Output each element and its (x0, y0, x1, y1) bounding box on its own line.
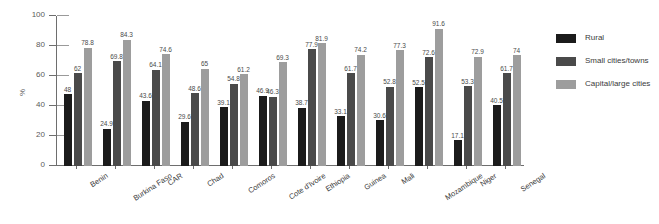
bar: 48 (64, 94, 72, 166)
bar-value-label: 74 (513, 48, 520, 55)
x-tick (115, 166, 116, 169)
y-tick: 60 (49, 75, 56, 76)
bar-value-label: 72.9 (471, 49, 484, 56)
bar: 74 (513, 55, 521, 166)
legend-item[interactable]: Rural (556, 34, 656, 43)
bar: 54.8 (230, 84, 238, 166)
x-axis-label: Senegal (519, 172, 546, 193)
y-tick-label: 80 (36, 41, 45, 49)
bar-value-label: 69.8 (110, 54, 123, 61)
x-tick (466, 166, 467, 169)
x-axis-label: Comoros (246, 172, 276, 195)
bar-group: 43.664.174.6 (142, 16, 170, 166)
bar: 61.7 (503, 73, 511, 166)
y-tick-label: 40 (36, 101, 45, 109)
y-tick-label: 20 (36, 131, 45, 139)
bar-value-label: 29.6 (178, 114, 191, 121)
bar-value-label: 40.5 (490, 98, 503, 105)
y-tick: 20 (49, 135, 56, 136)
y-tick-label: 100 (32, 11, 45, 19)
legend-label: Rural (585, 34, 604, 43)
bar-value-label: 48.6 (188, 86, 201, 93)
bar: 74.6 (162, 54, 170, 166)
bar: 52.5 (415, 87, 423, 166)
x-tick (271, 166, 272, 169)
x-axis-label: Ethiopia (324, 172, 351, 193)
bar-value-label: 61.2 (237, 67, 250, 74)
bar-value-label: 64.1 (149, 62, 162, 69)
x-axis-label: Guinea (362, 172, 386, 191)
bar: 48.6 (191, 93, 199, 166)
y-tick: 40 (49, 105, 56, 106)
x-tick (427, 166, 428, 169)
bar-value-label: 17.1 (451, 133, 464, 140)
x-axis-label: Cote d'Ivoire (287, 172, 326, 201)
x-tick (193, 166, 194, 169)
bar-value-label: 84.3 (120, 32, 133, 39)
legend-label: Capital/large cities (585, 80, 650, 89)
bar: 61.2 (240, 74, 248, 166)
bar: 65 (201, 69, 209, 167)
legend-swatch (556, 80, 576, 89)
bar: 78.8 (84, 48, 92, 166)
bar-value-label: 81.9 (315, 36, 328, 43)
chart-legend: RuralSmall cities/townsCapital/large cit… (556, 34, 656, 103)
bar-value-label: 62 (74, 66, 81, 73)
bar-value-label: 74.2 (354, 47, 367, 54)
legend-item[interactable]: Capital/large cities (556, 80, 656, 89)
bar-value-label: 61.7 (500, 66, 513, 73)
bar-value-label: 61.7 (344, 66, 357, 73)
bar-value-label: 69.3 (276, 55, 289, 62)
bar-group: 38.777.981.9 (298, 16, 326, 166)
bar: 46.3 (269, 97, 277, 166)
y-tick: 0 (49, 165, 56, 166)
y-tick: 100 (49, 15, 56, 16)
bar-group: 29.648.665 (181, 16, 209, 166)
plot-area: 020406080100 486278.824.969.884.343.664.… (56, 16, 524, 166)
x-axis-label: Burkina Faso (132, 172, 173, 202)
bar-value-label: 74.6 (159, 47, 172, 54)
bar-value-label: 77.3 (393, 43, 406, 50)
y-axis-line (56, 16, 57, 166)
bar: 33.1 (337, 116, 345, 166)
x-axis-label: Mozambique (443, 172, 483, 202)
bar-value-label: 48 (64, 87, 71, 94)
bar-value-label: 78.8 (81, 40, 94, 47)
bar: 72.6 (425, 57, 433, 166)
bar: 52.8 (386, 87, 394, 166)
bar-chart: % 020406080100 486278.824.969.884.343.66… (0, 0, 659, 224)
legend-swatch (556, 34, 576, 43)
x-tick (388, 166, 389, 169)
bar-value-label: 24.9 (100, 121, 113, 128)
bar-value-label: 52.8 (383, 79, 396, 86)
bar-group: 40.561.774 (493, 16, 521, 166)
x-tick (310, 166, 311, 169)
bar-value-label: 43.6 (139, 93, 152, 100)
bar: 81.9 (318, 43, 326, 166)
x-tick (349, 166, 350, 169)
bar-value-label: 53.3 (461, 79, 474, 86)
bar-group: 24.969.884.3 (103, 16, 131, 166)
legend-item[interactable]: Small cities/towns (556, 57, 656, 66)
bar: 77.3 (396, 50, 404, 166)
bar-value-label: 46.3 (266, 89, 279, 96)
legend-label: Small cities/towns (585, 57, 649, 66)
bar-value-label: 33.1 (334, 109, 347, 116)
y-tick-label: 60 (36, 71, 45, 79)
bar: 53.3 (464, 86, 472, 166)
bar-group: 17.153.372.9 (454, 16, 482, 166)
bar: 74.2 (357, 55, 365, 166)
bar: 43.6 (142, 101, 150, 166)
bar-value-label: 30.6 (373, 113, 386, 120)
x-axis-label: Benin (89, 172, 109, 189)
bar-group: 486278.8 (64, 16, 92, 166)
bar-value-label: 52.5 (412, 80, 425, 87)
y-tick-label: 0 (41, 161, 45, 169)
bar: 84.3 (123, 40, 131, 166)
bar-group: 39.154.861.2 (220, 16, 248, 166)
bar-group: 52.572.691.6 (415, 16, 443, 166)
x-axis-label: Chad (205, 172, 224, 188)
bar-value-label: 77.9 (305, 42, 318, 49)
bar: 24.9 (103, 129, 111, 166)
bar: 62 (74, 73, 82, 166)
